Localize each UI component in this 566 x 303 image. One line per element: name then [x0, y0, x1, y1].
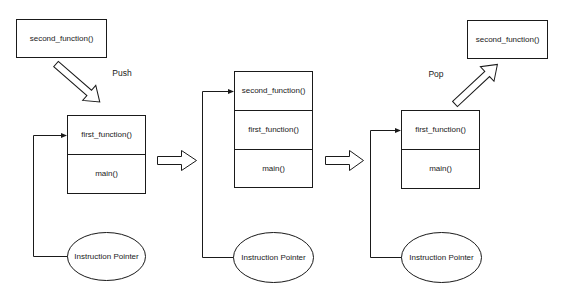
transition-arrow-2-icon [326, 151, 364, 171]
call-stack-diagram: second_function() Push first_function() … [0, 0, 566, 303]
pointer-2-connector [203, 92, 234, 258]
stack-2: second_function() first_function() main(… [235, 72, 313, 188]
stack-2-frame-0: second_function() [242, 86, 306, 95]
pointer-1-connector [34, 136, 68, 257]
stage-1: second_function() Push first_function() … [17, 20, 146, 281]
stage-2: second_function() first_function() main(… [203, 72, 314, 283]
instruction-pointer-1: Instruction Pointer [68, 233, 146, 281]
stack-3-frame-1: main() [429, 164, 452, 173]
stack-2-frame-2: main() [262, 164, 285, 173]
stack-1-frame-1: main() [95, 169, 118, 178]
instruction-pointer-2: Instruction Pointer [234, 233, 314, 283]
incoming-frame-box: second_function() [17, 20, 107, 58]
transition-arrow-1-icon [158, 151, 197, 171]
push-arrow-icon [49, 56, 106, 109]
incoming-frame-label: second_function() [30, 34, 94, 43]
pop-label: Pop [428, 69, 443, 79]
instruction-pointer-2-label: Instruction Pointer [241, 253, 306, 262]
push-label: Push [112, 68, 132, 78]
stage-3: second_function() Pop first_function() m… [371, 21, 548, 283]
stack-1-frame-0: first_function() [81, 130, 132, 139]
stack-3-frame-0: first_function() [415, 125, 466, 134]
pointer-3-connector [371, 131, 402, 258]
pop-arrow-icon [448, 57, 504, 111]
stack-3: first_function() main() [402, 111, 480, 189]
outgoing-frame-label: second_function() [476, 35, 540, 44]
outgoing-frame-box: second_function() [468, 21, 548, 59]
instruction-pointer-3: Instruction Pointer [402, 233, 482, 283]
stack-2-frame-1: first_function() [248, 125, 299, 134]
stack-1: first_function() main() [68, 116, 146, 194]
instruction-pointer-1-label: Instruction Pointer [74, 252, 139, 261]
instruction-pointer-3-label: Instruction Pointer [409, 253, 474, 262]
